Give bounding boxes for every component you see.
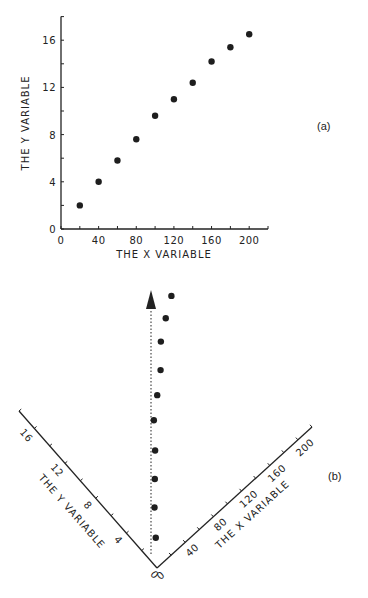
x-tick (296, 438, 298, 440)
x-tick (225, 502, 227, 504)
data-point (154, 392, 160, 398)
chart-b-data-points (151, 293, 175, 541)
data-point (158, 338, 164, 344)
x-tick-label: 200 (239, 235, 260, 246)
x-tick-label: 80 (129, 235, 143, 246)
y-tick-label: 4 (49, 177, 56, 188)
data-point (152, 447, 158, 453)
chart-panel-a: 040801201602000481216 THE X VARIABLE THE… (20, 17, 330, 260)
x-tick (169, 553, 171, 555)
panel-label-a: (a) (317, 120, 330, 132)
x-tick-label: 40 (92, 235, 106, 246)
chart-a-data-points (77, 31, 253, 209)
data-point (246, 31, 252, 37)
y-tick (80, 479, 82, 481)
chart-a-x-axis-title: THE X VARIABLE (115, 249, 212, 260)
x-tick (211, 515, 213, 517)
y-tick-label: 8 (81, 499, 94, 511)
figure: 040801201602000481216 THE X VARIABLE THE… (0, 0, 368, 598)
chart-a-y-axis-title: THE Y VARIABLE (20, 76, 31, 172)
chart-b-y-axis-title: THE Y VARIABLE (36, 471, 108, 550)
y-tick-label: 8 (49, 130, 56, 141)
y-tick (65, 461, 67, 463)
y-tick (126, 531, 128, 533)
y-tick (19, 409, 21, 411)
x-tick-label: 0 (58, 235, 65, 246)
figure-caption-cut-off (16, 588, 366, 598)
svg-text:THE Y VARIABLE: THE Y VARIABLE (36, 471, 108, 550)
x-tick (240, 489, 242, 491)
y-tick (34, 426, 36, 428)
data-point (77, 202, 83, 208)
data-point (151, 504, 157, 510)
x-tick (268, 463, 270, 465)
data-point (208, 58, 214, 64)
x-origin-label: 0 (154, 569, 166, 582)
chart-panel-b: 408012016020048121600 THE X VARIABLE THE… (18, 290, 342, 582)
chart-b-y-axis (19, 411, 157, 568)
data-point (171, 96, 177, 102)
chart-a-axes: 040801201602000481216 (42, 17, 268, 246)
x-tick-label: 120 (164, 235, 185, 246)
y-tick-label: 0 (49, 224, 56, 235)
data-point (114, 157, 120, 163)
y-tick (142, 549, 144, 551)
x-tick (197, 527, 199, 529)
data-point (227, 44, 233, 50)
x-tick-label: 160 (201, 235, 222, 246)
x-tick-label: 40 (183, 541, 201, 558)
y-tick (96, 496, 98, 498)
data-point (95, 179, 101, 185)
y-tick-label: 12 (48, 461, 65, 479)
y-tick-label: 12 (42, 82, 56, 93)
data-point (152, 476, 158, 482)
data-point (168, 293, 174, 299)
x-tick (254, 476, 256, 478)
data-point (133, 136, 139, 142)
x-tick (183, 540, 185, 542)
arrow-head-icon (146, 290, 156, 309)
data-point (157, 367, 163, 373)
y-tick-label: 4 (112, 534, 125, 546)
x-tick (282, 450, 284, 452)
chart-b-x-axis (157, 427, 312, 568)
data-point (152, 113, 158, 119)
data-point (151, 417, 157, 423)
data-point (163, 315, 169, 321)
y-tick (111, 514, 113, 516)
panel-label-b: (b) (328, 470, 341, 482)
data-point (153, 535, 159, 541)
y-tick (50, 444, 52, 446)
data-point (190, 79, 196, 85)
y-tick-label: 16 (18, 427, 35, 445)
y-tick-label: 16 (42, 35, 56, 46)
x-tick (310, 425, 312, 427)
